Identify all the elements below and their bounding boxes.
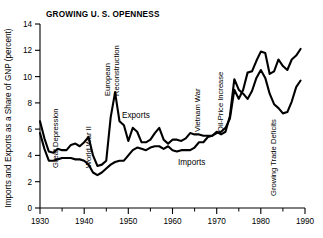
y-tick-12: 12 [23,46,33,55]
annotation-vietnam-war: Vietnam War [193,88,202,132]
chart-figure: GROWING U. S. OPENNESS Imports and Expor… [0,0,323,238]
x-tick-1940: 1940 [75,217,94,226]
chart-canvas: GROWING U. S. OPENNESS Imports and Expor… [0,0,323,238]
y-tick-6: 6 [27,125,32,134]
y-tick-8: 8 [27,99,32,108]
x-tick-1930: 1930 [31,217,50,226]
x-tick-1980: 1980 [252,217,271,226]
annotation-world-war-ii: World War II [84,126,93,168]
y-tick-0: 0 [27,204,32,213]
y-tick-14: 14 [23,20,33,29]
x-tick-1960: 1960 [163,217,182,226]
y-tick-2: 2 [27,178,32,187]
y-axis-label: Imports and Exports as a Share of GNP (p… [4,28,13,207]
chart-title: GROWING U. S. OPENNESS [46,10,160,19]
y-tick-10: 10 [23,73,33,82]
annotation-great-depression: Great Depression [51,108,60,168]
series-label-exports: Exports [122,111,150,120]
x-tick-1950: 1950 [119,217,138,226]
chart-background [0,0,323,238]
annotation-oil-price-increase: Oil-Price Increase [216,72,225,132]
annotation-growing-trade-deficits: Growing Trade Deficits [269,119,278,196]
x-tick-1970: 1970 [208,217,227,226]
annotation-european-reconstruction-line2: Reconstruction [112,45,121,96]
y-tick-4: 4 [27,151,32,160]
series-label-imports: Imports [178,158,205,167]
x-tick-1990: 1990 [296,217,315,226]
annotation-european-reconstruction-line1: European [103,63,112,96]
